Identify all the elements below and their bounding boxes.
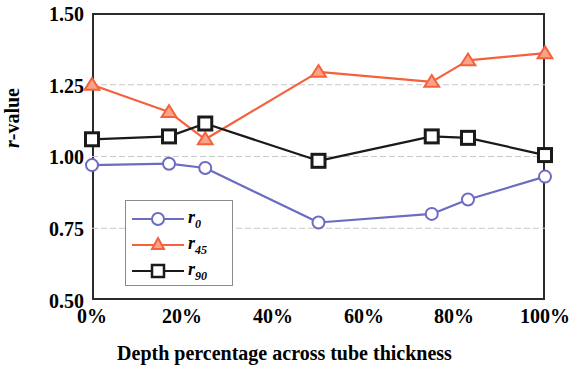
y-tick-label-075: 0.75 — [14, 219, 84, 239]
data-point-r_90-0 — [461, 131, 474, 144]
chart-figure: 1.50 1.25 1.00 0.75 0.50 r-value 0% 20% … — [0, 0, 569, 374]
legend-item-r45: r45 — [126, 233, 234, 257]
legend-marker-square-icon — [130, 260, 186, 282]
legend-label-r0: r0 — [188, 208, 201, 230]
series-r_90 — [86, 117, 552, 167]
legend-item-r90: r90 — [126, 259, 234, 283]
x-tick-label-20: 20% — [137, 306, 227, 326]
y-tick-label-150: 1.50 — [14, 4, 84, 24]
data-point-r_45-0 — [85, 78, 100, 90]
x-axis-title: Depth percentage across tube thickness — [0, 343, 569, 363]
legend-marker-triangle-icon — [130, 234, 186, 256]
data-point-r_0-0 — [539, 171, 551, 183]
data-point-r_90-0 — [86, 133, 99, 146]
series-r_45 — [85, 46, 553, 144]
x-tick-label-100: 100% — [500, 306, 569, 326]
data-point-r_90-0 — [199, 117, 212, 130]
data-point-r_90-0 — [312, 154, 325, 167]
data-point-r_0-0 — [313, 217, 325, 229]
data-point-r_0-0 — [163, 158, 175, 170]
data-point-r_45-0 — [311, 65, 326, 77]
x-tick-label-0: 0% — [47, 306, 137, 326]
data-point-r_0-0 — [199, 162, 211, 174]
y-axis-title: r-value — [2, 58, 22, 178]
chart-legend: r0 r45 r90 — [125, 200, 233, 286]
legend-marker-circle-icon — [130, 208, 186, 230]
data-point-r_0-0 — [426, 208, 438, 220]
data-point-r_0-0 — [86, 159, 98, 171]
data-point-r_90-0 — [163, 130, 176, 143]
x-tick-label-40: 40% — [228, 306, 318, 326]
data-point-r_0-0 — [462, 194, 474, 206]
legend-item-r0: r0 — [126, 207, 234, 231]
x-tick-label-80: 80% — [409, 306, 499, 326]
y-tick-label-100: 1.00 — [14, 147, 84, 167]
legend-label-r90: r90 — [188, 260, 207, 282]
data-point-r_90-0 — [425, 130, 438, 143]
y-axis-title-suffix: -value — [1, 88, 23, 140]
data-point-r_45-0 — [538, 46, 553, 58]
legend-label-r45: r45 — [188, 234, 207, 256]
data-point-r_90-0 — [539, 149, 552, 162]
x-tick-label-60: 60% — [319, 306, 409, 326]
y-tick-label-125: 1.25 — [14, 76, 84, 96]
y-axis-title-variable: r — [1, 140, 23, 148]
